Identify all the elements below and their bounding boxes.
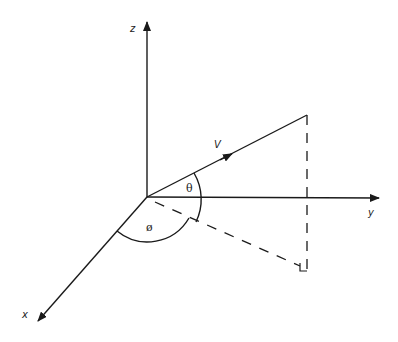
y-axis — [147, 197, 379, 198]
theta-label: θ — [186, 182, 193, 195]
x-axis — [38, 197, 147, 321]
y-axis-label: y — [367, 207, 375, 218]
vector-v-label: V — [214, 139, 222, 150]
z-axis-label: z — [129, 23, 136, 34]
right-angle-mark — [300, 263, 307, 271]
x-axis-label: x — [21, 309, 28, 320]
vector-diagram: z y x V θ ø — [0, 0, 398, 342]
projection-horizontal — [155, 202, 300, 266]
phi-arc — [117, 218, 189, 242]
vector-v-arrow — [220, 154, 232, 160]
phi-label: ø — [146, 221, 153, 234]
